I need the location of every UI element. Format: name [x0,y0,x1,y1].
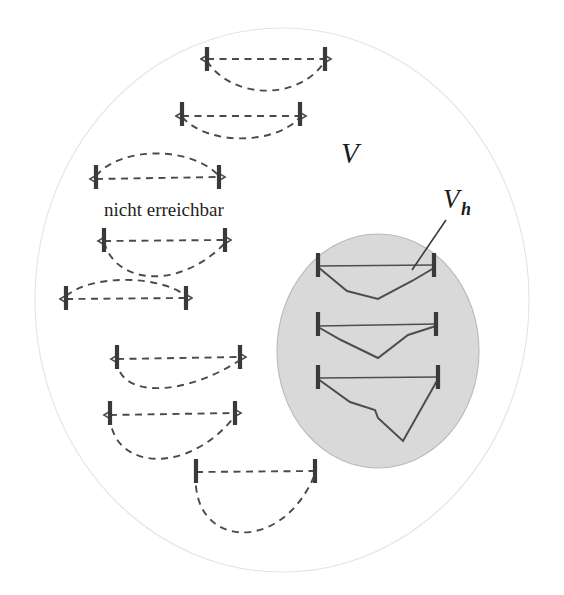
unreachable-annotation-label: nicht erreichbar [104,199,224,220]
reachable-chord [318,377,438,378]
set-diagram: V V h nicht erreichbar [0,0,564,595]
reachable-chord [318,265,434,266]
figure-root: V V h nicht erreichbar [0,0,564,595]
sub-region-ellipse-Vh [277,234,479,468]
sub-region-label-subscript: h [461,199,471,219]
